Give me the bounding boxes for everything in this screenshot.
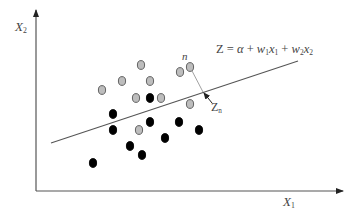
data-point-black <box>89 159 96 168</box>
data-point-black <box>146 94 153 103</box>
data-point-gray <box>118 77 125 86</box>
data-point-black <box>126 142 133 151</box>
data-point-gray <box>137 61 144 70</box>
projection-zn-label: Zn <box>211 101 222 115</box>
data-point-gray <box>146 77 153 86</box>
data-point-black <box>138 151 145 160</box>
data-point-gray <box>186 63 193 72</box>
decision-boundary-line <box>51 61 298 143</box>
y-axis-label: X2 <box>15 20 27 35</box>
data-point-gray <box>157 94 164 103</box>
data-point-gray <box>176 68 183 77</box>
data-point-gray <box>132 94 139 103</box>
classifier-diagram <box>0 0 359 217</box>
data-point-gray <box>135 126 142 135</box>
data-point-black <box>175 118 182 127</box>
data-point-black <box>109 126 116 135</box>
data-point-gray <box>186 100 193 109</box>
data-point-black <box>109 110 116 119</box>
data-point-gray <box>98 86 105 95</box>
data-point-black <box>195 126 202 135</box>
hyperplane-equation: Z = α + w1x1 + w2x2 <box>216 43 313 56</box>
data-point-black <box>146 118 153 127</box>
class-black-points <box>89 94 202 168</box>
x-axis-label: X1 <box>283 195 295 210</box>
data-point-black <box>161 134 168 143</box>
point-n-label: n <box>182 51 188 62</box>
